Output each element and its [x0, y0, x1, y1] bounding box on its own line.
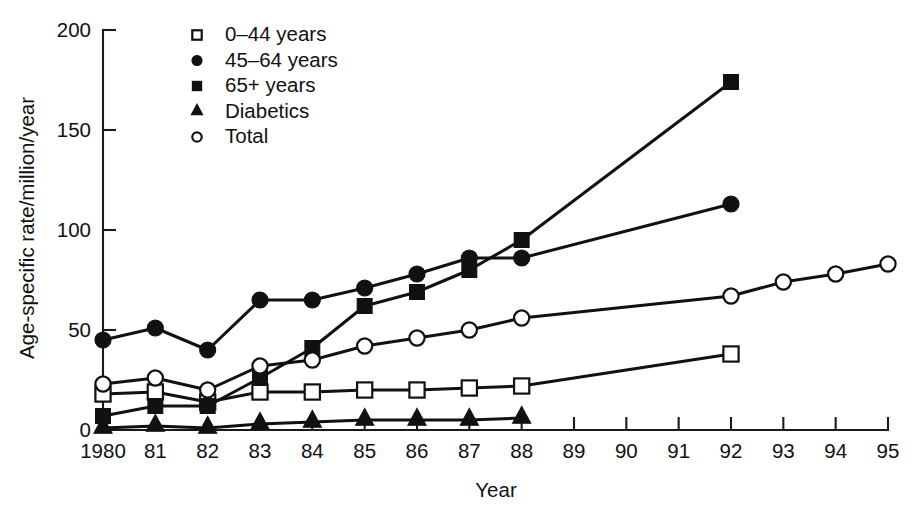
marker-filled-triangle [146, 415, 164, 432]
marker-open-circle [148, 370, 163, 385]
marker-filled-circle [95, 332, 111, 348]
marker-open-circle [880, 256, 895, 271]
marker-open-circle [723, 288, 738, 303]
marker-open-square [514, 378, 529, 393]
x-tick-label: 88 [510, 439, 533, 462]
marker-open-circle [95, 376, 110, 391]
marker-filled-triangle [408, 409, 426, 426]
marker-open-circle [462, 322, 477, 337]
x-tick-label: 90 [615, 439, 638, 462]
legend-item-4: Diabetics [191, 99, 309, 122]
marker-filled-square [200, 399, 215, 414]
x-tick-label: 89 [563, 439, 586, 462]
marker-filled-triangle [191, 104, 202, 114]
marker-filled-square [357, 299, 372, 314]
marker-filled-circle [514, 250, 530, 266]
marker-filled-circle [723, 196, 739, 212]
x-tick-label: 85 [353, 439, 376, 462]
marker-open-circle [200, 382, 215, 397]
series-3 [96, 75, 739, 424]
marker-open-circle [305, 352, 320, 367]
marker-open-circle [828, 266, 843, 281]
series-1 [95, 346, 738, 409]
y-tick-label: 0 [80, 418, 91, 441]
x-tick-label: 93 [772, 439, 795, 462]
y-axis-title: Age-specific rate/million/year [15, 97, 38, 359]
x-tick-label: 87 [458, 439, 481, 462]
marker-filled-triangle [251, 413, 269, 430]
marker-open-circle [776, 274, 791, 289]
marker-filled-circle [200, 342, 216, 358]
marker-open-circle [192, 132, 201, 141]
x-tick-label: 82 [196, 439, 219, 462]
legend-item-3: 65+ years [192, 73, 315, 96]
x-tick-label: 83 [249, 439, 272, 462]
x-axis-title: Year [475, 478, 517, 501]
legend-item-5: Total [192, 124, 268, 147]
x-tick-label: 95 [877, 439, 900, 462]
marker-filled-circle [147, 320, 163, 336]
series-layer [94, 75, 896, 434]
y-tick-label: 50 [68, 318, 91, 341]
legend-label: Total [225, 124, 268, 147]
legend-label: 45–64 years [225, 48, 338, 71]
marker-open-circle [252, 358, 267, 373]
x-tick-label: 81 [144, 439, 167, 462]
x-tick-label: 92 [720, 439, 743, 462]
marker-filled-square [192, 81, 201, 90]
marker-open-square [409, 382, 424, 397]
marker-filled-square [410, 285, 425, 300]
marker-open-square [723, 346, 738, 361]
chart-legend: 0–44 years45–64 years65+ yearsDiabeticsT… [191, 22, 337, 147]
marker-filled-triangle [513, 407, 531, 424]
marker-filled-triangle [356, 409, 374, 426]
legend-label: 0–44 years [225, 22, 326, 45]
marker-filled-circle [409, 266, 425, 282]
marker-filled-circle [304, 292, 320, 308]
chart-figure: 050100150200 198081828384858687888990919… [0, 0, 923, 516]
x-tick-label: 94 [824, 439, 847, 462]
marker-filled-square [724, 75, 739, 90]
marker-open-square [305, 384, 320, 399]
marker-open-square [252, 384, 267, 399]
marker-filled-triangle [460, 409, 478, 426]
marker-open-circle [409, 330, 424, 345]
marker-filled-circle [357, 280, 373, 296]
x-tick-label: 86 [406, 439, 429, 462]
series-5 [95, 256, 895, 397]
marker-open-square [462, 380, 477, 395]
marker-filled-circle [192, 56, 202, 66]
marker-open-circle [357, 338, 372, 353]
y-tick-label: 200 [57, 18, 91, 41]
marker-filled-triangle [199, 417, 217, 434]
series-line [103, 264, 888, 390]
marker-filled-circle [252, 292, 268, 308]
marker-filled-square [148, 399, 163, 414]
marker-filled-square [462, 263, 477, 278]
x-tick-label: 1980 [80, 439, 126, 462]
legend-label: Diabetics [225, 99, 309, 122]
marker-filled-square [514, 233, 529, 248]
legend-item-1: 0–44 years [192, 22, 326, 45]
y-tick-label: 150 [57, 118, 91, 141]
line-chart: 050100150200 198081828384858687888990919… [0, 0, 923, 516]
x-tick-label: 84 [301, 439, 324, 462]
legend-label: 65+ years [225, 73, 316, 96]
x-tick-label: 91 [667, 439, 690, 462]
marker-open-square [192, 30, 201, 39]
legend-item-2: 45–64 years [192, 48, 338, 71]
marker-open-circle [514, 310, 529, 325]
marker-filled-triangle [303, 411, 321, 428]
marker-open-square [357, 382, 372, 397]
y-tick-label: 100 [57, 218, 91, 241]
